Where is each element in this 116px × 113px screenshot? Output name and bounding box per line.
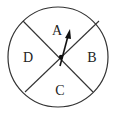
spinner-diagram: A B C D: [0, 0, 116, 113]
section-label-d: D: [23, 50, 33, 65]
spinner-pivot: [59, 55, 63, 59]
section-label-b: B: [87, 50, 96, 65]
section-label-a: A: [52, 23, 63, 38]
section-label-c: C: [55, 83, 64, 98]
